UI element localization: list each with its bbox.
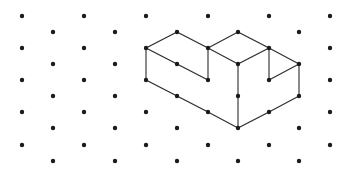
shape-edge [269,96,299,112]
grid-dot [236,62,240,66]
shape-edge [177,32,208,48]
grid-dot [175,94,179,98]
shape-edge [146,48,177,64]
grid-dot [206,143,210,147]
grid-dot [297,62,301,66]
shape-edges [146,32,299,128]
grid-dot [236,30,240,34]
grid-dot [144,14,148,18]
shape-edge [177,96,208,112]
grid-dot [51,126,55,130]
grid-dot [297,94,301,98]
grid-dot [20,110,24,114]
grid-dot [51,62,55,66]
grid-dot [82,110,86,114]
grid-dot [20,46,24,50]
shape-edge [146,80,177,96]
isometric-dot-grid [0,0,354,170]
grid-dot [144,78,148,82]
shape-edge [238,32,269,48]
grid-dot [20,143,24,147]
grid-dot [206,110,210,114]
grid-dot [113,159,117,163]
grid-dot [82,143,86,147]
grid-dot [175,159,179,163]
grid-dot [20,78,24,82]
grid-dot [328,46,332,50]
grid-dot [144,46,148,50]
shape-edge [208,48,238,64]
grid-dot [267,110,271,114]
grid-dot [328,78,332,82]
grid-dot [113,30,117,34]
grid-dot [206,14,210,18]
shape-edge [146,32,177,48]
grid-dot [206,46,210,50]
grid-dot [82,78,86,82]
shape-edge [177,64,208,80]
grid-dot [51,94,55,98]
grid-dot [297,30,301,34]
grid-dot [328,14,332,18]
shape-edge [238,112,269,128]
grid-dot [82,46,86,50]
grid-dot [267,46,271,50]
grid-dot [144,143,148,147]
grid-dot [113,126,117,130]
grid-dot [51,30,55,34]
isometric-drawing-canvas [0,0,354,170]
grid-dot [236,159,240,163]
grid-dot [267,143,271,147]
grid-dot [328,110,332,114]
grid-dot [51,159,55,163]
grid-dot [113,62,117,66]
shape-edge [269,48,299,64]
grid-dot [267,14,271,18]
grid-dot [236,94,240,98]
grid-dot [236,126,240,130]
grid-dot [113,94,117,98]
grid-dot [82,14,86,18]
grid-dot [175,62,179,66]
shape-edge [238,48,269,64]
grid-dot [144,110,148,114]
grid-dot [267,78,271,82]
grid-dot [297,159,301,163]
shape-edge [208,112,238,128]
grid-dot [175,126,179,130]
grid-dot [297,126,301,130]
grid-dot [175,30,179,34]
grid-dot [206,78,210,82]
shape-edge [208,32,238,48]
grid-dot [20,14,24,18]
shape-edge [269,64,299,80]
grid-dot [328,143,332,147]
grid-dots [20,14,332,163]
